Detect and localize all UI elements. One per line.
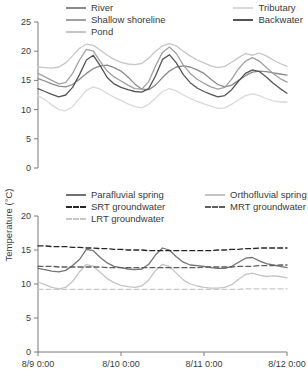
legend-column: Parafluvial springSRT groundwaterLRT gro… <box>66 189 165 225</box>
legend-item-lrt-groundwater: LRT groundwater <box>66 213 165 225</box>
legend-label: Orthofluvial spring <box>230 189 307 201</box>
x-tick-label: 8/10 0:00 <box>102 359 140 369</box>
top-legend: RiverShallow shorelinePondTributaryBackw… <box>66 2 303 38</box>
series-line-mrt-groundwater <box>38 265 287 268</box>
y-tick-label: 0 <box>26 347 31 357</box>
legend-item-shallow-shoreline: Shallow shoreline <box>66 14 165 26</box>
legend-item-srt-groundwater: SRT groundwater <box>66 201 165 213</box>
legend-label: MRT groundwater <box>230 201 306 213</box>
legend-line-swatch <box>66 218 86 220</box>
y-tick-label: 0 <box>26 163 31 173</box>
legend-item-tributary: Tributary <box>233 2 302 14</box>
y-tick-label: 15 <box>21 75 31 85</box>
legend-item-pond: Pond <box>66 26 165 38</box>
x-tick-label: 8/12 0:00 <box>268 359 306 369</box>
legend-label: SRT groundwater <box>91 201 165 213</box>
y-tick-label: 10 <box>21 279 31 289</box>
legend-label: Tributary <box>258 2 295 14</box>
legend-line-swatch <box>205 206 225 208</box>
legend-label: Backwater <box>258 14 302 26</box>
y-tick-label: 10 <box>21 105 31 115</box>
legend-item-backwater: Backwater <box>233 14 302 26</box>
legend-column: Orthofluvial springMRT groundwater <box>205 189 307 225</box>
legend-line-swatch <box>66 194 86 196</box>
y-tick-label: 20 <box>21 46 31 56</box>
y-tick-label: 20 <box>21 211 31 221</box>
series-line-lrt-groundwater <box>38 289 287 290</box>
bottom-legend: Parafluvial springSRT groundwaterLRT gro… <box>66 189 307 225</box>
series-line-pond <box>38 44 287 69</box>
legend-item-orthofluvial-spring: Orthofluvial spring <box>205 189 307 201</box>
y-tick-label: 15 <box>21 245 31 255</box>
y-tick-label: 25 <box>21 17 31 27</box>
legend-item-river: River <box>66 2 165 14</box>
legend-line-swatch <box>233 19 253 21</box>
y-tick-label: 5 <box>26 134 31 144</box>
legend-label: River <box>91 2 113 14</box>
legend-column: TributaryBackwater <box>233 2 302 38</box>
y-tick-label: 5 <box>26 313 31 323</box>
x-tick-label: 8/11 0:00 <box>186 359 223 369</box>
series-line-backwater <box>38 55 287 97</box>
legend-line-swatch <box>66 206 86 208</box>
temperature-figure: 2520151050201510508/9 0:008/10 0:008/11 … <box>0 0 308 381</box>
legend-line-swatch <box>66 7 86 9</box>
legend-label: Pond <box>91 26 113 38</box>
legend-label: Shallow shoreline <box>91 14 165 26</box>
y-axis-label: Temperature (°C) <box>3 189 14 262</box>
legend-label: Parafluvial spring <box>91 189 164 201</box>
series-line-tributary <box>38 87 287 111</box>
legend-line-swatch <box>66 19 86 21</box>
legend-line-swatch <box>66 31 86 33</box>
legend-column: RiverShallow shorelinePond <box>66 2 165 38</box>
x-tick-label: 8/9 0:00 <box>22 359 55 369</box>
legend-line-swatch <box>205 194 225 196</box>
legend-line-swatch <box>233 7 253 9</box>
legend-item-mrt-groundwater: MRT groundwater <box>205 201 307 213</box>
legend-item-parafluvial-spring: Parafluvial spring <box>66 189 165 201</box>
legend-label: LRT groundwater <box>91 213 164 225</box>
